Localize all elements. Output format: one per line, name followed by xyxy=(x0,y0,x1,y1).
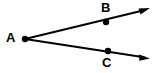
point-c-label: C xyxy=(102,56,111,69)
point-b-dot xyxy=(103,19,109,25)
angle-diagram: A B C xyxy=(0,0,156,73)
ray-ac-arrowhead xyxy=(139,55,150,61)
point-a-dot xyxy=(22,36,28,42)
ray-ab-arrowhead xyxy=(139,8,151,15)
ray-ac-line xyxy=(25,39,144,57)
point-a-label: A xyxy=(6,31,15,44)
ray-ac xyxy=(25,39,150,61)
ray-ab xyxy=(25,8,150,39)
ray-ab-line xyxy=(25,10,144,39)
angle-diagram-canvas xyxy=(0,0,156,73)
point-c-dot xyxy=(105,48,111,54)
point-b-label: B xyxy=(101,1,110,14)
